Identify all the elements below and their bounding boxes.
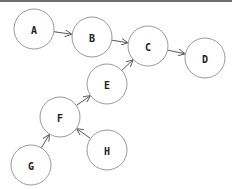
edge-f-to-e-arrow <box>76 96 89 105</box>
node-h[interactable]: H <box>87 130 127 170</box>
nodes-layer: A B C D E F G H <box>11 9 225 185</box>
directed-graph-diagram: A B C D E F G H <box>0 0 232 189</box>
edge-a-to-b-arrow <box>54 32 71 34</box>
svg-text:H: H <box>104 146 110 157</box>
node-f[interactable]: F <box>40 97 80 137</box>
svg-text:C: C <box>145 42 151 53</box>
edge-b-to-c-arrow <box>112 40 128 42</box>
svg-text:D: D <box>202 54 208 65</box>
edge-g-to-f-arrow <box>41 135 49 148</box>
node-d[interactable]: D <box>185 38 225 78</box>
node-b[interactable]: B <box>72 17 112 57</box>
svg-text:A: A <box>31 25 37 36</box>
node-a[interactable]: A <box>14 9 54 49</box>
edge-c-to-d-arrow <box>168 50 185 54</box>
svg-text:E: E <box>104 80 110 91</box>
svg-text:F: F <box>57 113 63 124</box>
node-g[interactable]: G <box>11 145 51 185</box>
edge-e-to-c-arrow <box>122 60 133 70</box>
node-c[interactable]: C <box>128 26 168 66</box>
edge-h-to-f-arrow <box>77 129 90 138</box>
svg-text:G: G <box>28 161 34 172</box>
svg-text:B: B <box>89 33 95 44</box>
node-e[interactable]: E <box>87 64 127 104</box>
